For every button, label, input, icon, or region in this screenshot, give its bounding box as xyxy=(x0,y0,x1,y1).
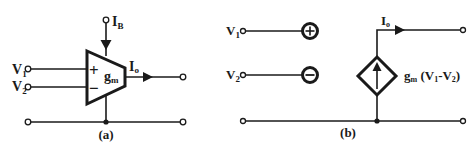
ground-rail-b xyxy=(241,95,466,124)
v1-label: V1 xyxy=(12,62,27,79)
junction-dot xyxy=(103,119,108,124)
output-arrow-icon xyxy=(143,72,153,82)
v2-label: V2 xyxy=(226,67,240,84)
output-current: Io xyxy=(125,59,186,82)
caption-a: (a) xyxy=(98,127,113,142)
plus-sign: + xyxy=(89,61,99,80)
ground-terminal-left xyxy=(25,119,31,125)
minus-sign: − xyxy=(89,79,99,98)
output-current: Io xyxy=(377,13,466,57)
junction-dot xyxy=(374,118,379,123)
output-terminal xyxy=(461,28,466,33)
source-expression: gm (V1-V2) xyxy=(404,68,460,84)
v1-terminal xyxy=(241,29,246,34)
output-arrow-icon xyxy=(395,25,405,35)
bias-terminal xyxy=(103,17,109,23)
input-v2: V2 xyxy=(12,79,87,96)
input-v2: V2 xyxy=(226,67,318,84)
bias-arrow-icon xyxy=(101,40,112,50)
ground-terminal-right xyxy=(461,119,466,124)
bias-current-label: IB xyxy=(112,14,123,31)
ground-terminal-left xyxy=(241,119,246,124)
dependent-current-source: gm (V1-V2) xyxy=(358,57,460,95)
ground-terminal-right xyxy=(180,119,186,125)
ground-rail-a xyxy=(25,95,186,125)
input-v1: V1 xyxy=(12,62,87,79)
gain-label: gm xyxy=(104,69,119,85)
caption-b: (b) xyxy=(340,125,356,140)
v2-label: V2 xyxy=(12,79,27,96)
input-v1: V1 xyxy=(226,23,318,40)
v1-label: V1 xyxy=(226,23,240,40)
figure-b-equivalent-circuit: V1 V2 gm (V1-V2) Io xyxy=(226,13,466,140)
figure-a-ota-symbol: IB V1 V2 + − gm Io xyxy=(12,14,186,142)
output-current-label: Io xyxy=(381,13,390,29)
output-current-label: Io xyxy=(129,59,139,75)
output-terminal xyxy=(180,74,186,80)
bias-current-input: IB xyxy=(101,14,124,56)
output-wire xyxy=(377,30,461,57)
v2-terminal xyxy=(241,73,246,78)
